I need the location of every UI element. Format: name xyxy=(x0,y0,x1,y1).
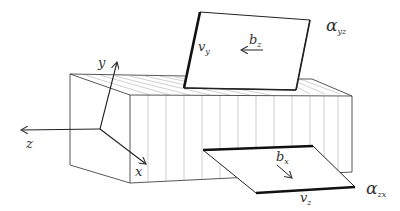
alpha-zx-label: αzx xyxy=(366,180,386,199)
alpha-yz-label: αyz xyxy=(326,17,346,36)
y-axis-label: y xyxy=(98,56,105,69)
bx-label: bx xyxy=(276,150,289,166)
diagram-canvas: y z x vy bz αyz bx vz αzx xyxy=(0,0,400,211)
x-axis-label: x xyxy=(135,165,142,178)
coordinate-axes xyxy=(21,62,146,164)
z-axis-arrow xyxy=(21,129,100,130)
vy-label: vy xyxy=(198,40,210,56)
z-axis-label: z xyxy=(26,137,33,150)
vz-label: vz xyxy=(300,191,312,207)
bz-label: bz xyxy=(249,33,262,49)
y-axis-arrow xyxy=(100,62,117,129)
x-axis-arrow xyxy=(100,129,146,164)
